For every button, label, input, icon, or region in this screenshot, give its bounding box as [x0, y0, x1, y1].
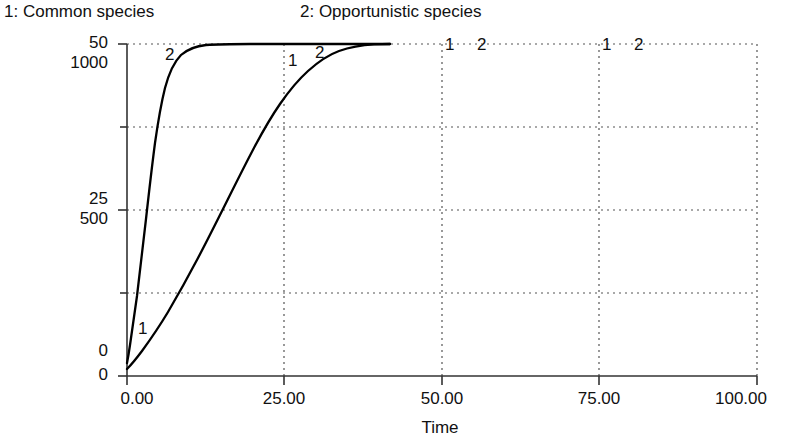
y-axis	[118, 44, 127, 376]
chart-page: 1: Common species 2: Opportunistic speci…	[0, 0, 789, 443]
y-tick-label-series1-0: 0	[48, 342, 108, 360]
x-tick-label-25: 25.00	[249, 390, 319, 408]
series-marker-2-a: 2	[165, 46, 174, 63]
y-tick-label-series2-0: 0	[28, 366, 108, 384]
y-tick-label-series2-500: 500	[28, 210, 108, 228]
y-tick-label-series2-1000: 1000	[28, 54, 108, 72]
series-marker-2-c: 2	[477, 36, 486, 53]
x-tick-label-75: 75.00	[564, 390, 634, 408]
y-tick-label-series1-50: 50	[48, 34, 108, 52]
series-marker-1-d: 1	[602, 36, 611, 53]
series-marker-1-a: 1	[138, 320, 147, 337]
series-line-opportunistic-species	[127, 44, 390, 369]
series-marker-1-c: 1	[445, 36, 454, 53]
x-tick-label-0: 0.00	[107, 390, 167, 408]
x-tick-label-100: 100.00	[715, 390, 789, 408]
chart-canvas	[0, 0, 789, 443]
x-axis-title: Time	[0, 419, 789, 437]
x-axis	[127, 376, 757, 385]
y-tick-label-series1-25: 25	[48, 190, 108, 208]
series-marker-2-b: 2	[315, 44, 324, 61]
plot-area: 50 1000 25 500 0 0 0.00 25.00 50.00 75.0…	[0, 0, 789, 443]
series-marker-1-b: 1	[288, 52, 297, 69]
x-tick-label-50: 50.00	[407, 390, 477, 408]
series-marker-2-d: 2	[634, 36, 643, 53]
